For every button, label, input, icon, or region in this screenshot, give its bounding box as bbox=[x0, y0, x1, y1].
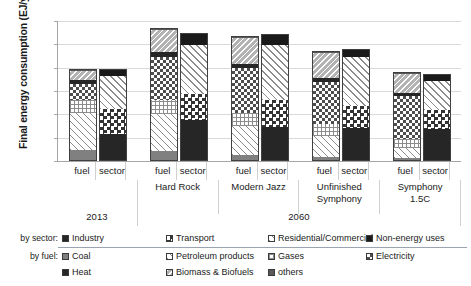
legend-item-biomass-biofuels: Biomass & Biofuels bbox=[166, 265, 254, 280]
segment-gases-fuel-4 bbox=[394, 139, 420, 148]
legend-item-others: others bbox=[268, 265, 303, 280]
segment-coal-fuel-3 bbox=[313, 157, 339, 160]
segment-coal-fuel-0 bbox=[70, 150, 96, 160]
legend-swatch-industry bbox=[62, 235, 69, 242]
legend-label: Industry bbox=[72, 231, 104, 246]
legend-label: Coal bbox=[72, 249, 91, 264]
segment-biomass-fuel-0 bbox=[70, 71, 96, 81]
bar-fuel-4 bbox=[393, 72, 421, 161]
x-label-fuel-4: fuel bbox=[392, 162, 420, 180]
segment-nonenergy-sector-3 bbox=[343, 50, 369, 57]
plot-area: 0100200300400500600 bbox=[57, 22, 461, 162]
x-axis-category-row: fuelsectorfuelsectorfuelsectorfuelsector… bbox=[57, 162, 461, 180]
legend-swatch-nonenergy bbox=[366, 235, 373, 242]
y-tick-200 bbox=[54, 114, 58, 115]
segment-industry-sector-1 bbox=[181, 120, 207, 160]
legend-swatch-gases bbox=[268, 253, 275, 260]
legend-divider bbox=[58, 247, 467, 248]
segment-electricity-fuel-2 bbox=[232, 68, 258, 113]
legend-label: Transport bbox=[176, 231, 214, 246]
legend-label: Electricity bbox=[376, 249, 415, 264]
segment-electricity-fuel-3 bbox=[313, 82, 339, 125]
segment-biomass-fuel-1 bbox=[151, 30, 177, 53]
segment-rescom-sector-0 bbox=[100, 76, 126, 109]
legend-swatch-heat bbox=[62, 269, 69, 276]
y-tick-400 bbox=[54, 68, 58, 69]
x-year-label-2013: 2013 bbox=[57, 208, 138, 226]
segment-rescom-sector-3 bbox=[343, 57, 369, 106]
x-axis-year-row: 20132060 bbox=[57, 208, 461, 226]
segment-gases-fuel-1 bbox=[151, 100, 177, 114]
segment-transport-sector-0 bbox=[100, 109, 126, 134]
x-label-sector-4: sector bbox=[422, 162, 450, 180]
legend-swatch-transport bbox=[166, 235, 173, 242]
segment-petroleum-fuel-1 bbox=[151, 114, 177, 151]
segment-biomass-fuel-4 bbox=[394, 74, 420, 93]
x-label-sector-2: sector bbox=[260, 162, 288, 180]
segment-electricity-fuel-4 bbox=[394, 96, 420, 139]
legend-item-industry: Industry bbox=[62, 231, 104, 246]
gridline-500 bbox=[58, 44, 461, 45]
legend-label: Residential/Commercial bbox=[278, 231, 373, 246]
segment-rescom-sector-4 bbox=[424, 81, 450, 110]
segment-electricity-fuel-0 bbox=[70, 84, 96, 100]
legend-item-transport: Transport bbox=[166, 231, 214, 246]
segment-petroleum-fuel-3 bbox=[313, 136, 339, 157]
x-label-fuel-2: fuel bbox=[230, 162, 258, 180]
segment-petroleum-fuel-0 bbox=[70, 113, 96, 150]
segment-transport-sector-4 bbox=[424, 110, 450, 129]
y-tick-500 bbox=[54, 44, 58, 45]
legend-label: others bbox=[278, 265, 303, 280]
bar-sector-2 bbox=[261, 34, 289, 161]
legend-item-gases: Gases bbox=[268, 249, 304, 264]
legend-label: Biomass & Biofuels bbox=[176, 265, 254, 280]
legend-tag-by-fuel: by fuel: bbox=[4, 249, 58, 264]
segment-coal-fuel-4 bbox=[394, 158, 420, 160]
segment-biomass-fuel-3 bbox=[313, 53, 339, 79]
legend-row-fuel-1: by fuel: Coal Petroleum products Gases E… bbox=[0, 249, 471, 264]
legend-swatch-electricity bbox=[366, 253, 373, 260]
chart-figure: Final energy consumption (EJ/yr.) 010020… bbox=[0, 0, 471, 286]
legend-swatch-rescom bbox=[268, 235, 275, 242]
legend-tag-by-sector: by sector: bbox=[4, 231, 58, 246]
gridline-600 bbox=[58, 21, 461, 22]
segment-gases-fuel-0 bbox=[70, 100, 96, 113]
y-tick-300 bbox=[54, 91, 58, 92]
x-label-fuel-0: fuel bbox=[68, 162, 96, 180]
legend-label: Non-energy uses bbox=[376, 231, 445, 246]
bar-fuel-0 bbox=[69, 69, 97, 161]
y-tick-100 bbox=[54, 138, 58, 139]
x-label-fuel-3: fuel bbox=[311, 162, 339, 180]
x-label-sector-1: sector bbox=[179, 162, 207, 180]
legend-swatch-petroleum bbox=[166, 253, 173, 260]
segment-industry-sector-4 bbox=[424, 129, 450, 160]
segment-transport-sector-3 bbox=[343, 106, 369, 128]
legend-item-coal: Coal bbox=[62, 249, 91, 264]
legend-item-heat: Heat bbox=[62, 265, 91, 280]
segment-petroleum-fuel-2 bbox=[232, 126, 258, 155]
segment-nonenergy-sector-2 bbox=[262, 35, 288, 45]
segment-rescom-sector-1 bbox=[181, 45, 207, 94]
legend-swatch-biomass bbox=[166, 269, 173, 276]
legend-item-residential-commercial: Residential/Commercial bbox=[268, 231, 373, 246]
bar-sector-3 bbox=[342, 49, 370, 161]
segment-industry-sector-2 bbox=[262, 127, 288, 160]
segment-gases-fuel-3 bbox=[313, 124, 339, 135]
bar-sector-4 bbox=[423, 74, 451, 161]
segment-coal-fuel-2 bbox=[232, 155, 258, 160]
bar-sector-1 bbox=[180, 33, 208, 161]
legend-label: Heat bbox=[72, 265, 91, 280]
chart-legend: by sector: Industry Transport Residentia… bbox=[0, 231, 471, 286]
segment-biomass-fuel-2 bbox=[232, 38, 258, 64]
legend-item-electricity: Electricity bbox=[366, 249, 415, 264]
bar-sector-0 bbox=[99, 69, 127, 161]
y-tick-600 bbox=[54, 21, 58, 22]
legend-label: Petroleum products bbox=[176, 249, 254, 264]
legend-row-sector: by sector: Industry Transport Residentia… bbox=[0, 231, 471, 246]
segment-transport-sector-1 bbox=[181, 94, 207, 120]
legend-row-fuel-2: Heat Biomass & Biofuels others bbox=[0, 265, 471, 280]
segment-coal-fuel-1 bbox=[151, 151, 177, 160]
segment-industry-sector-0 bbox=[100, 134, 126, 160]
x-label-fuel-1: fuel bbox=[149, 162, 177, 180]
segment-rescom-sector-2 bbox=[262, 45, 288, 100]
